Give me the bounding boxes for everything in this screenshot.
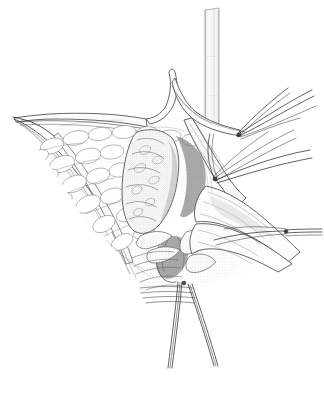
tracheal-tube	[205, 8, 219, 125]
knot-mid	[213, 177, 218, 182]
illustration-canvas	[0, 0, 324, 393]
knot-upper	[236, 133, 240, 137]
knot-inferior	[182, 281, 186, 285]
knot-right-apex	[284, 229, 288, 233]
surgical-illustration-figure	[0, 0, 324, 393]
